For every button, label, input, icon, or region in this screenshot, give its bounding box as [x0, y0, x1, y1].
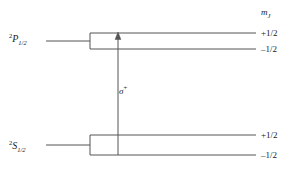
- lower-term-subscript: 1/2: [17, 146, 25, 153]
- upper-level-mj-plus-half-label: +1/2: [261, 29, 278, 38]
- lower-state-term-label: 2S1/2: [9, 140, 26, 154]
- upper-term-subscript: 1/2: [18, 39, 26, 46]
- diagram-canvas: [0, 0, 299, 170]
- sigma-superscript: +: [123, 84, 127, 91]
- mj-column-header: mJ: [261, 8, 270, 19]
- upper-state-term-label: 2P1/2: [9, 33, 27, 47]
- energy-level-diagram: 2P1/2 2S1/2 mJ +1/2 –1/2 +1/2 –1/2 σ+: [0, 0, 299, 170]
- lower-level-mj-minus-half-label: –1/2: [261, 151, 277, 160]
- mj-header-subscript: J: [268, 12, 271, 19]
- lower-level-mj-plus-half-label: +1/2: [261, 131, 278, 140]
- transition-polarization-label: σ+: [119, 85, 127, 96]
- upper-level-mj-minus-half-label: –1/2: [261, 45, 277, 54]
